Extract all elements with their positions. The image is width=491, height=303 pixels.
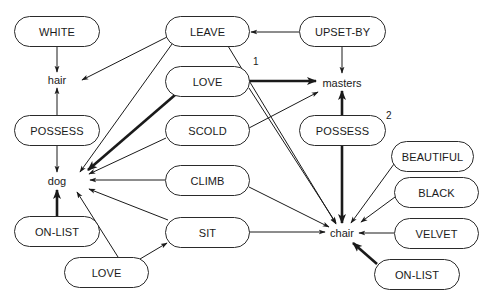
- edge-sit-dog: [89, 189, 168, 220]
- relation-onlist-left: ON-LIST: [14, 216, 100, 247]
- relation-possess-left: POSSESS: [14, 115, 100, 146]
- relation-sit: SIT: [165, 217, 250, 248]
- relation-possess-right: POSSESS: [299, 115, 386, 146]
- conceptual-graph-diagram: hair dog masters chair WHITE POSSESS ON-…: [0, 0, 491, 303]
- edge-onlistright-chair: [353, 243, 377, 264]
- relation-black: BLACK: [394, 177, 479, 208]
- index-label-1: 1: [253, 56, 259, 67]
- edge-love-dog: [88, 95, 175, 170]
- relation-leave: LEAVE: [165, 16, 250, 47]
- concept-chair: chair: [329, 227, 355, 239]
- relation-beautiful: BEAUTIFUL: [391, 141, 474, 172]
- relation-climb: CLIMB: [165, 165, 250, 196]
- index-label-2: 2: [386, 110, 392, 121]
- edge-lovebottom-sit: [140, 243, 167, 259]
- relation-onlist-right: ON-LIST: [374, 259, 460, 290]
- concept-dog: dog: [47, 175, 67, 187]
- concept-masters: masters: [321, 77, 362, 89]
- relation-white: WHITE: [14, 16, 100, 47]
- relation-velvet: VELVET: [394, 218, 479, 249]
- relation-love-bottom: LOVE: [64, 257, 149, 288]
- edge-black-chair: [361, 197, 395, 222]
- edge-love-chair: [249, 88, 336, 223]
- relation-love-mid: LOVE: [165, 66, 250, 97]
- concept-hair: hair: [47, 74, 67, 86]
- edge-leave-hair: [82, 37, 167, 80]
- relation-scold: SCOLD: [165, 115, 250, 146]
- relation-upset-by: UPSET-BY: [299, 16, 386, 47]
